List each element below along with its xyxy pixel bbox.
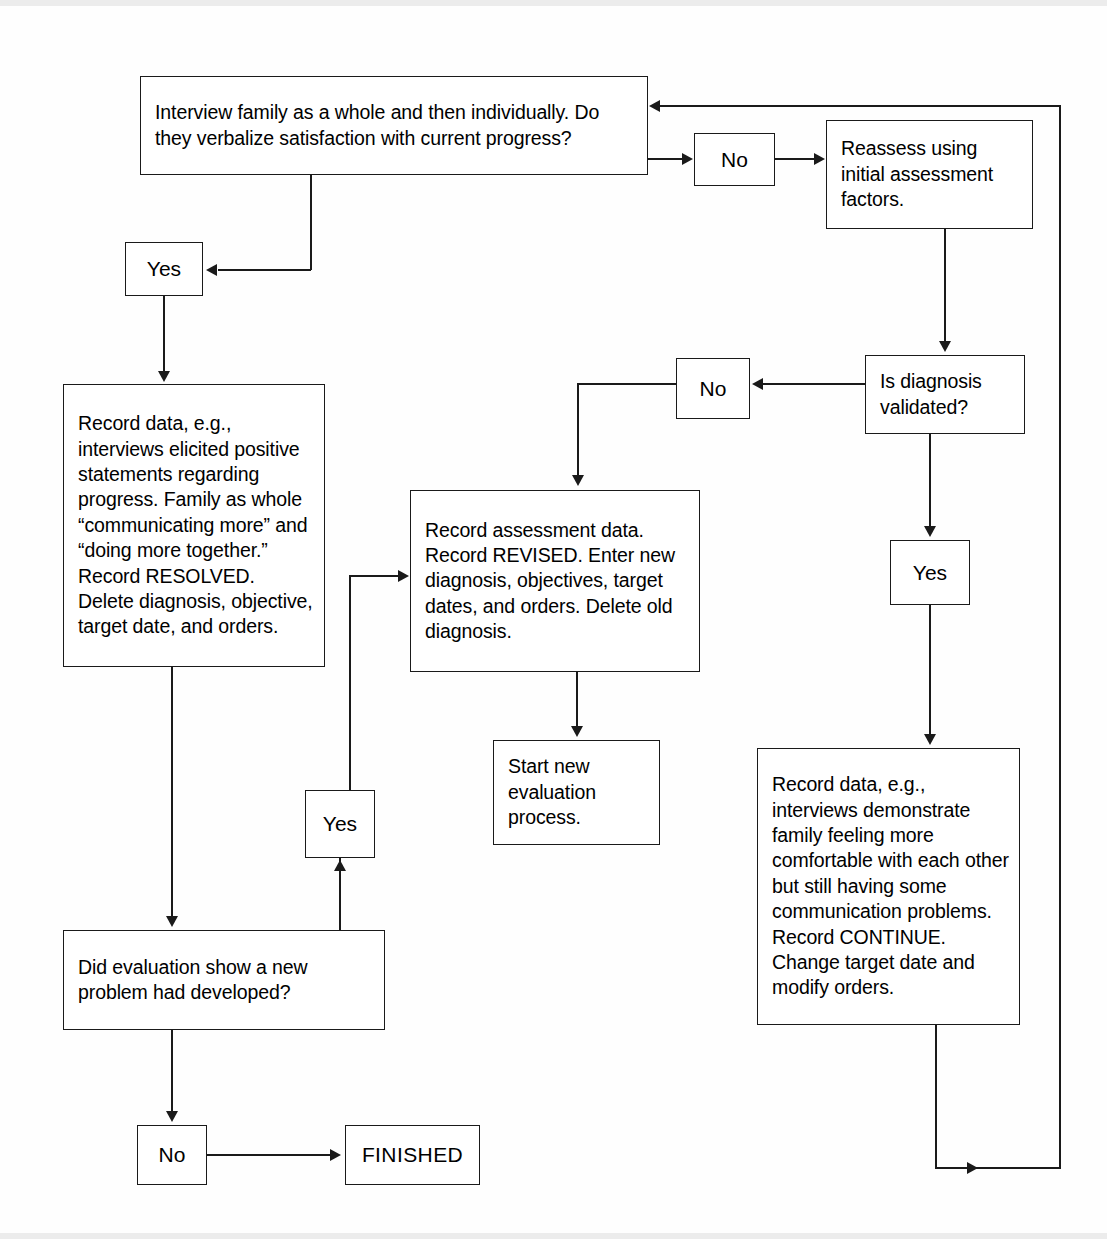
edge-yes-new-problem-to-record-revised (349, 575, 399, 577)
arrowhead-reassess-to-is-validated (939, 341, 951, 352)
edge-record-continue-right (935, 1167, 1061, 1169)
node-record-continue-label: Record data, e.g., interviews demonstrat… (758, 772, 1019, 1000)
node-no-validated[interactable]: No (676, 358, 750, 419)
edge-no-bottom-to-finished (207, 1154, 331, 1156)
arrowhead-is-validated-to-yes (924, 526, 936, 537)
node-no-validated-label: No (677, 375, 749, 402)
node-reassess-label: Reassess using initial assessment factor… (827, 136, 1032, 212)
edge-yes-validated-to-record-continue (929, 605, 931, 735)
node-record-revised[interactable]: Record assessment data. Record REVISED. … (410, 490, 700, 672)
edge-is-validated-to-no (763, 383, 866, 385)
node-record-continue[interactable]: Record data, e.g., interviews demonstrat… (757, 748, 1020, 1025)
node-reassess[interactable]: Reassess using initial assessment factor… (826, 120, 1033, 229)
node-no-top[interactable]: No (694, 133, 775, 186)
arrowhead-right-rail-to-interview (649, 100, 660, 112)
edge-right-rail-to-interview (660, 105, 1060, 107)
node-no-bottom[interactable]: No (137, 1125, 207, 1185)
arrowhead-is-validated-to-no (752, 378, 763, 390)
node-no-top-label: No (695, 146, 774, 173)
node-new-problem-question[interactable]: Did evaluation show a new problem had de… (63, 930, 385, 1030)
arrowhead-record-resolved-to-new-problem (166, 916, 178, 927)
arrowhead-no-bottom-to-finished (330, 1149, 341, 1161)
arrowhead-interview-to-yes-left (206, 264, 217, 276)
node-new-problem-question-label: Did evaluation show a new problem had de… (64, 955, 384, 1006)
arrowhead-no-top-to-reassess (814, 153, 825, 165)
edge-right-rail-up (1059, 105, 1061, 1169)
edge-is-validated-to-yes (929, 434, 931, 527)
node-record-revised-label: Record assessment data. Record REVISED. … (411, 518, 699, 645)
arrowhead-record-revised-to-start-new (571, 726, 583, 737)
node-start-new-evaluation-label: Start new evaluation process. (494, 754, 659, 830)
node-start-new-evaluation[interactable]: Start new evaluation process. (493, 740, 660, 845)
node-yes-left-label: Yes (126, 255, 202, 282)
edge-record-revised-to-start-new (576, 672, 578, 727)
arrowhead-interview-to-no-top (682, 153, 693, 165)
arrowhead-no-validated-to-record-revised (572, 475, 584, 486)
edge-no-top-to-reassess (775, 158, 815, 160)
node-yes-validated-label: Yes (891, 559, 969, 586)
edge-interview-to-yes-left (218, 269, 311, 271)
edge-yes-left-to-record-resolved (163, 296, 165, 372)
node-interview-family[interactable]: Interview family as a whole and then ind… (140, 76, 648, 175)
node-yes-left[interactable]: Yes (125, 242, 203, 296)
arrowhead-yes-left-to-record-resolved (158, 371, 170, 382)
node-record-resolved[interactable]: Record data, e.g., interviews elicited p… (63, 384, 325, 667)
edge-reassess-to-is-validated (944, 229, 946, 342)
node-yes-new-problem-label: Yes (306, 810, 374, 837)
node-record-resolved-label: Record data, e.g., interviews elicited p… (64, 411, 324, 639)
arrowhead-yes-validated-to-record-continue (924, 734, 936, 745)
node-yes-validated[interactable]: Yes (890, 540, 970, 605)
arrowhead-new-problem-to-yes (334, 860, 346, 871)
edge-no-validated-left-stub (577, 383, 677, 385)
edge-new-problem-right-stub (339, 882, 341, 931)
node-no-bottom-label: No (138, 1141, 206, 1168)
node-is-diagnosis-validated-label: Is diagnosis validated? (866, 369, 1024, 420)
arrowhead-record-continue-right (967, 1162, 978, 1174)
node-is-diagnosis-validated[interactable]: Is diagnosis validated? (865, 355, 1025, 434)
node-yes-new-problem[interactable]: Yes (305, 790, 375, 858)
node-interview-family-label: Interview family as a whole and then ind… (141, 100, 647, 151)
scan-artifact (0, 0, 1107, 6)
edge-record-resolved-to-new-problem (171, 667, 173, 917)
edge-interview-down-stub (310, 175, 312, 270)
edge-interview-to-no-top (648, 158, 683, 160)
node-finished[interactable]: FINISHED (345, 1125, 480, 1185)
node-finished-label: FINISHED (346, 1141, 479, 1168)
edge-yes-new-problem-up (349, 575, 351, 791)
edge-new-problem-to-no-bottom (171, 1030, 173, 1112)
edge-no-validated-down-stub (577, 383, 579, 476)
flowchart-canvas: Interview family as a whole and then ind… (0, 0, 1107, 1239)
edge-record-continue-down (935, 1025, 937, 1169)
arrowhead-new-problem-to-no-bottom (166, 1111, 178, 1122)
scan-artifact (0, 1233, 1107, 1239)
arrowhead-yes-new-problem-to-record-revised (398, 570, 409, 582)
